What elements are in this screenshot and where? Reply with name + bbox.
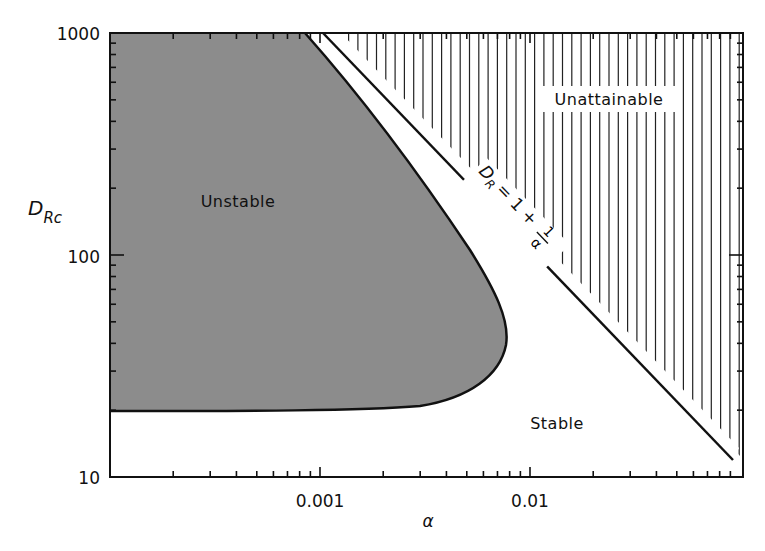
unstable-region [110,33,507,411]
stable-label: Stable [530,414,584,433]
stability-chart: 1000 100 10 0.001 0.01 DRc α Unstable Un… [0,0,765,551]
y-tick-1000: 1000 [57,24,100,44]
y-tick-100: 100 [68,247,100,267]
x-axis-title: α [422,511,433,531]
unstable-label: Unstable [201,192,276,211]
unattainable-label: Unattainable [555,90,664,109]
x-tick-0.01: 0.01 [511,491,549,511]
y-tick-10: 10 [78,468,100,488]
y-axis-title: DRc [28,196,63,227]
x-tick-0.001: 0.001 [296,491,345,511]
boundary-equation-label: DR= 1 + 1 α [462,157,571,269]
